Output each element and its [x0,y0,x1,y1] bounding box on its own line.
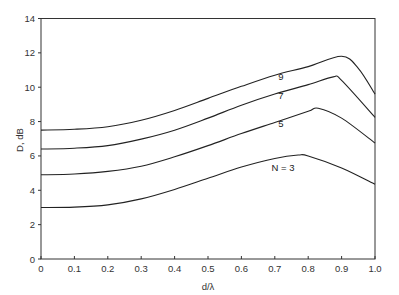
y-tick-label: 10 [24,82,35,93]
curve-label: 9 [278,71,283,82]
plot-frame [41,19,375,260]
x-tick-label: 0.8 [302,263,315,274]
curve-n3 [41,155,375,208]
curve-label: N = 3 [271,162,294,173]
curve-n7 [41,76,375,149]
y-tick-label: 12 [24,47,35,58]
x-tick-label: 0.1 [68,263,81,274]
y-tick-label: 6 [30,150,35,161]
y-axis-ticks: 02468101214 [24,13,41,265]
x-tick-label: 0.5 [201,263,214,274]
curve-label: 7 [278,90,283,101]
y-axis-label: D, dB [14,128,25,152]
curves [41,56,375,207]
x-tick-label: 1.0 [368,263,381,274]
curve-label: 5 [278,118,283,129]
x-tick-label: 0.3 [135,263,148,274]
y-tick-label: 14 [24,13,35,24]
line-chart: 00.10.20.30.40.50.60.70.80.91.0 02468101… [0,0,399,295]
y-tick-label: 8 [30,116,35,127]
x-tick-label: 0.2 [101,263,114,274]
x-tick-label: 0.9 [335,263,348,274]
x-axis-label: d/λ [202,281,215,292]
x-tick-label: 0.7 [268,263,281,274]
x-tick-label: 0.4 [168,263,181,274]
y-tick-label: 0 [30,254,35,265]
y-tick-label: 2 [30,219,35,230]
y-tick-label: 4 [30,185,35,196]
x-tick-label: 0.6 [235,263,248,274]
curve-n9 [41,56,375,130]
x-tick-label: 0 [38,263,43,274]
